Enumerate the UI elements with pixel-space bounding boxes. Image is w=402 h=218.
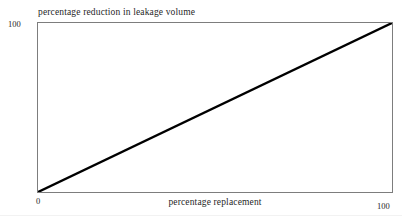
y-axis-tick-100: 100 (8, 19, 21, 29)
chart-title: percentage reduction in leakage volume (38, 6, 195, 18)
page-edge-artifact (0, 215, 402, 216)
x-axis-tick-100: 100 (377, 201, 390, 211)
chart-figure: percentage reduction in leakage volume 1… (0, 0, 402, 218)
plot-area (37, 22, 393, 193)
plot-surface (38, 23, 392, 192)
identity-line (38, 23, 392, 192)
x-axis-label: percentage replacement (37, 196, 393, 208)
series-line-leakage-reduction (38, 23, 392, 192)
